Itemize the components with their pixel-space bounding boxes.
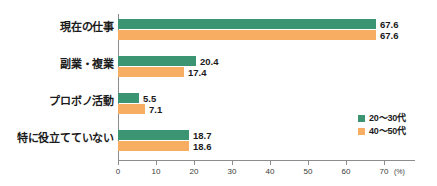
bar-chart: 現在の仕事 副業・複業 プロボノ活動 特に役立てていない 0 10 20 30 … — [0, 0, 437, 186]
bar-series0 — [118, 130, 189, 140]
x-axis-tick — [232, 160, 233, 165]
x-axis-unit-label: (%) — [394, 168, 405, 175]
legend-item: 20～30代 — [358, 112, 406, 125]
category-label: 現在の仕事 — [60, 22, 114, 33]
x-axis-tick-label: 20 — [190, 168, 199, 176]
bar-series0 — [118, 93, 139, 103]
x-axis-tick — [384, 160, 385, 165]
bar-series0 — [118, 19, 376, 29]
bar-value-label: 67.6 — [380, 31, 399, 41]
legend-label: 20～30代 — [369, 114, 406, 123]
legend-swatch-icon — [358, 128, 365, 135]
bar-value-label: 18.6 — [193, 142, 212, 152]
bar-series1 — [118, 30, 376, 40]
plot-area: 0 10 20 30 40 50 60 70 (%) 67.6 67.6 20.… — [118, 14, 415, 160]
bar-series0 — [118, 56, 196, 66]
x-axis-line — [118, 160, 415, 161]
x-axis-tick-label: 70 — [380, 168, 389, 176]
x-axis-tick — [270, 160, 271, 165]
x-axis-tick-label: 10 — [152, 168, 161, 176]
bar-value-label: 7.1 — [149, 105, 162, 115]
category-label: 特に役立てていない — [17, 133, 114, 144]
x-axis-tick-label: 60 — [342, 168, 351, 176]
bar-series1 — [118, 141, 189, 151]
x-axis-tick-label: 50 — [304, 168, 313, 176]
bar-series1 — [118, 104, 145, 114]
x-axis-tick — [156, 160, 157, 165]
x-axis-tick — [194, 160, 195, 165]
x-axis-tick-label: 30 — [228, 168, 237, 176]
bar-value-label: 20.4 — [200, 57, 219, 67]
x-axis-tick-label: 0 — [116, 168, 120, 176]
chart-legend: 20～30代 40～50代 — [358, 112, 406, 138]
bar-value-label: 18.7 — [193, 131, 212, 141]
bar-series1 — [118, 67, 184, 77]
bar-value-label: 5.5 — [143, 94, 156, 104]
legend-item: 40～50代 — [358, 125, 406, 138]
bar-value-label: 67.6 — [380, 20, 399, 30]
bar-value-label: 17.4 — [188, 68, 207, 78]
category-label: 副業・複業 — [60, 59, 114, 70]
x-axis-tick-label: 40 — [266, 168, 275, 176]
category-label: プロボノ活動 — [49, 96, 114, 107]
legend-label: 40～50代 — [369, 127, 406, 136]
x-axis-tick — [308, 160, 309, 165]
x-axis-tick — [346, 160, 347, 165]
x-axis-tick — [118, 160, 119, 165]
legend-swatch-icon — [358, 115, 365, 122]
